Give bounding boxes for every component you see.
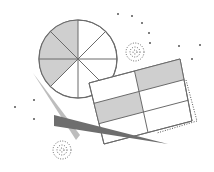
dotted-circle (133, 50, 137, 54)
dotted-circle (57, 145, 67, 155)
speck (149, 42, 151, 44)
speck (33, 99, 35, 101)
dotted-circle (126, 43, 144, 61)
speck (191, 58, 193, 60)
speck (178, 45, 180, 47)
speck (141, 22, 143, 24)
speck (199, 44, 201, 46)
speck (131, 15, 133, 17)
speck (117, 13, 119, 15)
illustration-canvas (0, 0, 214, 172)
dotted-circle (53, 141, 71, 159)
dotted-circle (60, 148, 64, 152)
speck (14, 106, 16, 108)
speck (33, 118, 35, 120)
dotted-circle (130, 47, 140, 57)
speck (148, 32, 150, 34)
